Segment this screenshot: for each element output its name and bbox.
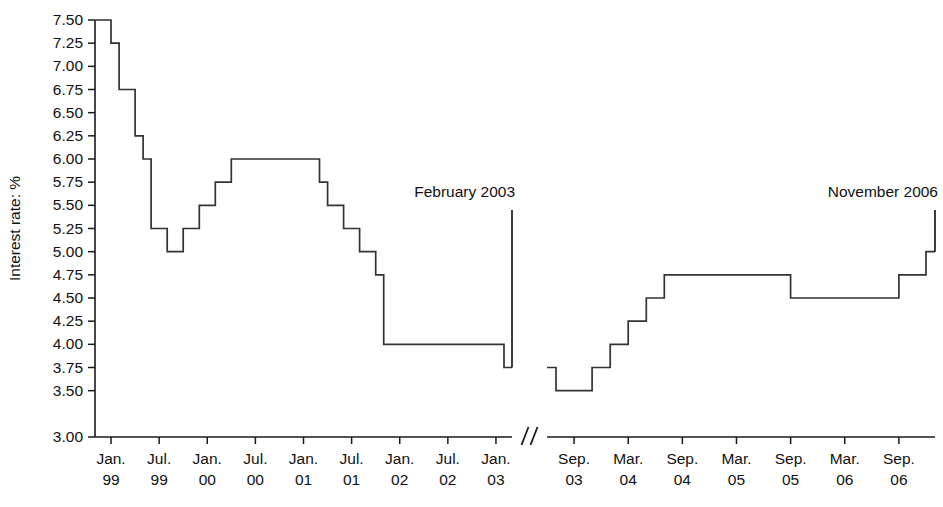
- x-tick-label-month: Sep.: [775, 450, 807, 467]
- y-axis-title: Interest rate: %: [6, 176, 23, 281]
- x-tick-label-month: Jan.: [96, 450, 125, 467]
- x-axis: Jan.99Jul.99Jan.00Jul.00Jan.01Jul.01Jan.…: [95, 427, 935, 488]
- x-tick-label-year: 02: [391, 471, 408, 488]
- x-tick-label-year: 99: [151, 471, 168, 488]
- x-tick-label-year: 02: [439, 471, 456, 488]
- x-tick-label-month: Sep.: [558, 450, 590, 467]
- x-tick-label-month: Mar.: [830, 450, 860, 467]
- x-tick-label-month: Jul.: [436, 450, 460, 467]
- y-axis: 7.507.257.006.756.506.256.005.755.505.25…: [53, 11, 95, 445]
- x-tick-label-year: 00: [199, 471, 217, 488]
- y-tick-label: 4.00: [53, 335, 84, 352]
- y-tick-label: 7.50: [53, 11, 84, 28]
- x-tick-label-month: Jan.: [193, 450, 222, 467]
- y-tick-label: 5.50: [53, 196, 84, 213]
- annotation-label: February 2003: [414, 183, 515, 200]
- y-tick-label: 6.75: [53, 81, 83, 98]
- x-tick-label-month: Jul.: [243, 450, 267, 467]
- x-tick-label-year: 06: [836, 471, 853, 488]
- rate-step-line: [547, 252, 935, 391]
- y-tick-label: 7.25: [53, 34, 83, 51]
- x-tick-label-month: Jan.: [481, 450, 510, 467]
- x-tick-label-year: 03: [565, 471, 582, 488]
- x-tick-label-month: Mar.: [613, 450, 643, 467]
- y-tick-label: 3.75: [53, 359, 83, 376]
- annotation-label: November 2006: [828, 183, 938, 200]
- x-tick-label-year: 06: [890, 471, 907, 488]
- x-tick-label-year: 99: [102, 471, 119, 488]
- interest-rate-chart: 7.507.257.006.756.506.256.005.755.505.25…: [0, 0, 943, 507]
- x-tick-label-month: Jan.: [289, 450, 318, 467]
- y-tick-label: 4.50: [53, 289, 84, 306]
- y-tick-label: 5.00: [53, 243, 84, 260]
- y-tick-label: 4.75: [53, 266, 83, 283]
- x-tick-label-year: 04: [620, 471, 638, 488]
- x-tick-label-month: Jul.: [147, 450, 171, 467]
- y-tick-label: 3.00: [53, 428, 84, 445]
- x-tick-label-year: 05: [728, 471, 745, 488]
- x-tick-label-month: Jan.: [385, 450, 414, 467]
- x-tick-label-month: Mar.: [721, 450, 751, 467]
- y-tick-label: 6.25: [53, 127, 83, 144]
- y-axis-title-text: Interest rate: %: [6, 176, 23, 281]
- series-lines: [95, 20, 935, 391]
- y-tick-label: 6.00: [53, 150, 84, 167]
- x-tick-label-month: Sep.: [883, 450, 915, 467]
- y-tick-label: 5.25: [53, 220, 83, 237]
- y-tick-label: 7.00: [53, 57, 84, 74]
- x-tick-label-year: 00: [247, 471, 265, 488]
- x-tick-label-month: Jul.: [340, 450, 364, 467]
- y-tick-label: 4.25: [53, 312, 83, 329]
- y-tick-label: 6.50: [53, 104, 84, 121]
- chart-canvas: 7.507.257.006.756.506.256.005.755.505.25…: [0, 0, 943, 507]
- x-tick-label-year: 05: [782, 471, 799, 488]
- x-tick-label-year: 01: [343, 471, 360, 488]
- y-tick-label: 5.75: [53, 173, 83, 190]
- y-tick-label: 3.50: [53, 382, 84, 399]
- x-tick-label-year: 01: [295, 471, 312, 488]
- x-tick-label-year: 04: [674, 471, 692, 488]
- x-tick-label-month: Sep.: [666, 450, 698, 467]
- axis-break-marker: [522, 427, 538, 445]
- x-tick-label-year: 03: [487, 471, 504, 488]
